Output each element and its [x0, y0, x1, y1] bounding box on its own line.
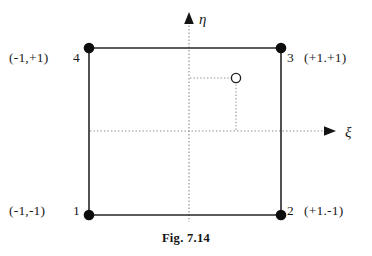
node-3-number: 3 — [287, 50, 294, 66]
element-node-1-marker[interactable] — [84, 210, 95, 221]
element-node-2-marker[interactable] — [276, 210, 287, 221]
node-4-coordinate-label: (-1,+1) — [9, 50, 48, 66]
element-node-3-marker[interactable] — [276, 43, 287, 54]
eta-axis-arrowhead — [184, 12, 194, 24]
node-2-coordinate-label: (+1.-1) — [304, 203, 343, 219]
node-1-number: 1 — [73, 203, 80, 219]
figure-container: (-1,+1) 4 3 (+1.+1) (-1,-1) 1 2 (+1.-1) … — [0, 0, 372, 256]
eta-axis-label: η — [199, 11, 206, 28]
node-4-number: 4 — [73, 50, 80, 66]
interior-point-marker[interactable] — [231, 73, 240, 82]
node-1-coordinate-label: (-1,-1) — [9, 203, 45, 219]
figure-caption: Fig. 7.14 — [0, 231, 372, 246]
element-node-4-marker[interactable] — [84, 43, 95, 54]
node-2-number: 2 — [287, 203, 294, 219]
xi-axis-arrowhead — [324, 126, 336, 136]
node-3-coordinate-label: (+1.+1) — [304, 50, 347, 66]
xi-axis-label: ξ — [345, 124, 351, 141]
